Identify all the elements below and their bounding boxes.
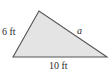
- left-side-label: 6 ft: [2, 27, 16, 37]
- triangle-polygon: [13, 11, 107, 57]
- triangle-diagram: 6 ft a 10 ft: [0, 0, 109, 79]
- base-label: 10 ft: [49, 61, 68, 71]
- right-side-label: a: [77, 26, 82, 36]
